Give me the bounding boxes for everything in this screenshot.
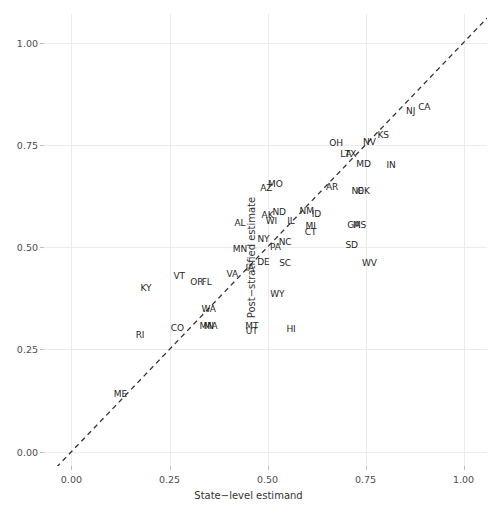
data-point-label-fl-9: FL — [202, 277, 212, 286]
data-point-label-hi-14: HI — [286, 325, 295, 334]
x-axis-title: State−level estimand — [0, 490, 497, 501]
y-tick-mark-0 — [40, 452, 44, 453]
data-point-label-nd-25: ND — [272, 208, 285, 217]
x-tick-mark-3 — [366, 466, 367, 470]
data-point-label-wy-15: WY — [270, 290, 284, 299]
data-point-label-nv-43: NV — [363, 138, 376, 147]
data-point-label-ms-35: MS — [353, 220, 366, 229]
x-tick-label-2: 0.50 — [257, 474, 278, 485]
y-tick-label-2: 0.50 — [12, 242, 38, 253]
x-tick-mark-2 — [268, 466, 269, 470]
data-point-label-mo-32: MO — [268, 179, 283, 188]
data-point-label-md-45: MD — [356, 160, 371, 169]
y-tick-label-0: 0.00 — [12, 446, 38, 457]
data-point-label-wv-37: WV — [362, 258, 377, 267]
data-point-label-ar-33: AR — [326, 182, 338, 191]
data-point-label-id-28: ID — [312, 210, 321, 219]
x-tick-mark-0 — [71, 466, 72, 470]
y-tick-label-1: 0.25 — [12, 344, 38, 355]
data-point-label-ia-11: IA — [245, 264, 254, 273]
data-point-label-me-0: ME — [114, 390, 127, 399]
data-point-label-tx-42: TX — [345, 150, 356, 159]
data-point-label-ut-13: UT — [246, 327, 258, 336]
y-tick-mark-1 — [40, 349, 44, 350]
x-tick-mark-1 — [170, 466, 171, 470]
data-point-label-ks-44: KS — [377, 130, 388, 139]
data-point-label-al-22: AL — [235, 219, 246, 228]
scatter-plot-figure: MERICOKYWAMNMAVTORFLVAIAMTUTHIWYMNNYDEPA… — [0, 0, 497, 515]
plot-panel: MERICOKYWAMNMAVTORFLVAIAMTUTHIWYMNNYDEPA… — [44, 14, 487, 466]
data-point-label-ny-17: NY — [257, 235, 269, 244]
x-tick-label-0: 0.00 — [61, 474, 82, 485]
data-point-label-in-46: IN — [386, 161, 395, 170]
data-point-label-va-10: VA — [226, 269, 238, 278]
data-point-label-ri-1: RI — [136, 331, 145, 340]
data-point-label-co-2: CO — [171, 323, 184, 332]
data-point-label-ct-30: CT — [305, 227, 317, 236]
y-tick-mark-4 — [40, 43, 44, 44]
data-point-label-nj-47: NJ — [406, 106, 415, 115]
data-point-label-ky-3: KY — [140, 284, 151, 293]
data-point-label-nc-20: NC — [279, 237, 292, 246]
data-point-label-ok-39: OK — [357, 186, 370, 195]
x-tick-label-3: 0.75 — [355, 474, 376, 485]
y-tick-mark-2 — [40, 247, 44, 248]
y-tick-label-4: 1.00 — [12, 37, 38, 48]
data-point-label-sc-21: SC — [279, 258, 291, 267]
data-point-label-wi-24: WI — [266, 216, 277, 225]
data-point-label-ca-48: CA — [418, 102, 430, 111]
data-point-label-sd-36: SD — [345, 241, 357, 250]
data-point-label-wa-4: WA — [202, 304, 216, 313]
x-tick-label-4: 1.00 — [453, 474, 474, 485]
data-point-label-il-26: IL — [287, 216, 294, 225]
data-point-label-vt-7: VT — [174, 271, 185, 280]
data-point-label-mn-16: MN — [233, 245, 247, 254]
x-tick-label-1: 0.25 — [159, 474, 180, 485]
y-tick-mark-3 — [40, 145, 44, 146]
y-tick-label-3: 0.75 — [12, 139, 38, 150]
data-point-label-de-18: DE — [257, 258, 269, 267]
data-point-label-oh-40: OH — [329, 138, 343, 147]
data-point-label-ma-6: MA — [204, 322, 218, 331]
x-tick-mark-4 — [464, 466, 465, 470]
